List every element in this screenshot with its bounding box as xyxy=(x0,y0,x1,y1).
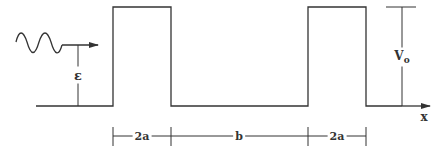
energy-label: ε xyxy=(74,67,82,84)
barrier-height-symbol: V xyxy=(394,49,403,63)
potential-barrier-diagram: ε Vo x 2a b 2a xyxy=(0,0,443,155)
potential-profile xyxy=(36,7,430,106)
barrier-height-label: Vo xyxy=(394,48,409,67)
barrier-height-subscript: o xyxy=(404,55,410,65)
barrier-width-label-1: 2a xyxy=(133,131,152,142)
diagram-drawing xyxy=(0,0,443,155)
barrier-width-label-2: 2a xyxy=(328,131,347,142)
x-axis-label: x xyxy=(420,111,427,123)
potential-line xyxy=(36,7,402,106)
wave-curve xyxy=(16,33,62,53)
incident-wave-icon xyxy=(16,33,98,53)
well-width-label: b xyxy=(233,131,245,142)
